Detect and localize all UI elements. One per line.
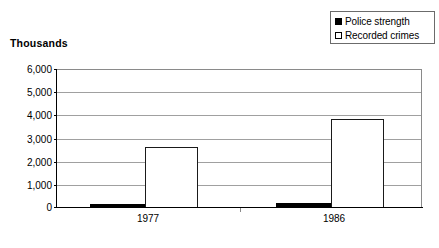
chart-legend: Police strength Recorded crimes bbox=[330, 11, 435, 44]
ytick-mark-2000 bbox=[54, 162, 57, 163]
bar-recorded-crimes-1977 bbox=[145, 147, 198, 208]
ytick-mark-3000 bbox=[54, 139, 57, 140]
xtick-label-1977: 1977 bbox=[137, 213, 159, 224]
legend-item-police-strength: Police strength bbox=[335, 14, 431, 28]
ytick-mark-5000 bbox=[54, 92, 57, 93]
ytick-mark-6000 bbox=[54, 69, 57, 70]
legend-item-recorded-crimes: Recorded crimes bbox=[335, 28, 431, 42]
y-axis-title: Thousands bbox=[10, 37, 68, 49]
gridline-4000: 4,000 bbox=[57, 115, 421, 116]
ytick-label-2000: 2,000 bbox=[27, 156, 52, 167]
ytick-mark-4000 bbox=[54, 115, 57, 116]
ytick-label-0: 0 bbox=[46, 202, 52, 213]
legend-label-police-strength: Police strength bbox=[345, 16, 410, 27]
ytick-label-1000: 1,000 bbox=[27, 179, 52, 190]
legend-label-recorded-crimes: Recorded crimes bbox=[345, 30, 419, 41]
gridline-6000: 6,000 bbox=[57, 69, 421, 70]
gridline-5000: 5,000 bbox=[57, 92, 421, 93]
ytick-label-4000: 4,000 bbox=[27, 110, 52, 121]
ytick-mark-1000 bbox=[54, 185, 57, 186]
category-divider bbox=[240, 208, 241, 212]
ytick-label-6000: 6,000 bbox=[27, 64, 52, 75]
xtick-label-1986: 1986 bbox=[323, 213, 345, 224]
plot-area: 6,000 5,000 4,000 3,000 2,000 1,000 0 bbox=[56, 69, 422, 208]
ytick-label-3000: 3,000 bbox=[27, 133, 52, 144]
ytick-label-5000: 5,000 bbox=[27, 87, 52, 98]
legend-swatch-filled-icon bbox=[335, 18, 342, 25]
legend-swatch-hollow-icon bbox=[335, 32, 342, 39]
bar-recorded-crimes-1986 bbox=[331, 119, 384, 208]
